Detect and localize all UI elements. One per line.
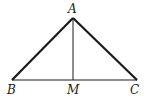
segment-ac bbox=[73, 18, 137, 80]
label-b: B bbox=[7, 84, 16, 96]
label-a: A bbox=[68, 3, 77, 15]
segment-ab bbox=[12, 18, 73, 80]
label-c: C bbox=[130, 84, 139, 96]
label-m: M bbox=[67, 84, 79, 96]
